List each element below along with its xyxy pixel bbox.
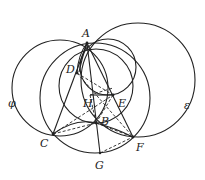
label-h: H (83, 98, 93, 109)
label-g: G (95, 160, 104, 171)
dashed-gf (100, 137, 133, 153)
circle-adb (59, 49, 133, 123)
label-b: B (101, 116, 109, 127)
circle-phi (12, 40, 108, 136)
point-a (86, 42, 89, 45)
circle-epsilon (81, 23, 195, 137)
label-phi: φ (8, 98, 16, 109)
label-d: D (66, 64, 75, 75)
point-d (76, 72, 79, 75)
diagram-canvas (0, 0, 205, 180)
dashed-cb (53, 123, 96, 134)
point-f (132, 136, 135, 139)
point-e (112, 94, 115, 97)
point-b (95, 122, 98, 125)
label-f: F (136, 142, 144, 153)
point-g (99, 152, 101, 154)
label-c: C (40, 138, 48, 149)
label-a: A (82, 28, 90, 39)
geometry-diagram: A D H E B C F G φ ε (0, 0, 205, 180)
label-e: E (118, 98, 126, 109)
point-c (52, 133, 55, 136)
label-epsilon: ε (184, 100, 190, 111)
